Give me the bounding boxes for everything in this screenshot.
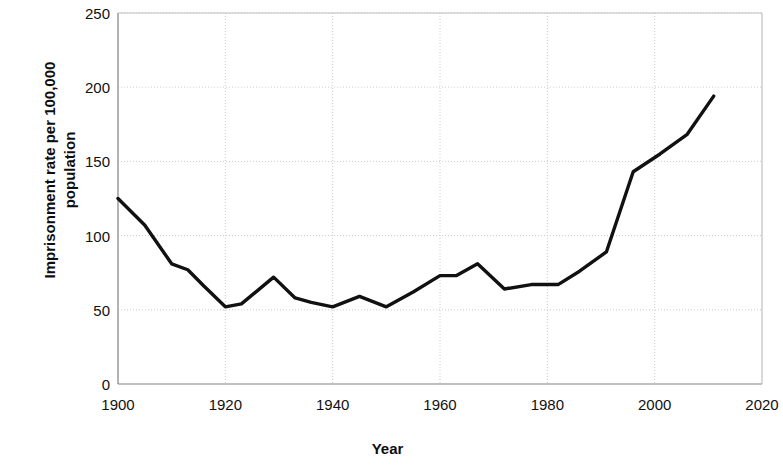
- x-tick-label: 1920: [190, 396, 260, 413]
- gridlines: [118, 13, 762, 384]
- x-tick-label: 1940: [298, 396, 368, 413]
- x-tick-label: 1900: [83, 396, 153, 413]
- data-series-line: [118, 96, 714, 307]
- x-tick-label: 1960: [405, 396, 475, 413]
- x-axis-title: Year: [0, 440, 775, 457]
- x-tick-label: 2020: [727, 396, 783, 413]
- x-tick-label: 1980: [512, 396, 582, 413]
- x-tick-label: 2000: [620, 396, 690, 413]
